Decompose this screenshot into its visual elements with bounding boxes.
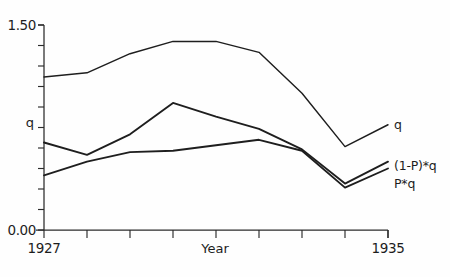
x-axis-start-tick-label: 1927 — [28, 240, 61, 256]
series-label-one-minus-p-q: (1-P)*q — [394, 158, 437, 173]
series-label-p-q: P*q — [394, 176, 415, 191]
chart-figure: 1.50 0.00 q 1927 1935 Year q (1-P)*q P*q — [0, 0, 450, 277]
x-axis-ticks — [44, 230, 388, 238]
y-axis-ticks — [38, 25, 44, 230]
line-chart-canvas: 1.50 0.00 q 1927 1935 Year q (1-P)*q P*q — [0, 0, 450, 277]
series-label-q: q — [394, 117, 402, 132]
x-axis-end-tick-label: 1935 — [372, 240, 405, 256]
series-line-p-q — [44, 140, 388, 188]
series-line-q — [44, 41, 388, 146]
series-line-one-minus-p-q — [44, 103, 388, 184]
x-axis-title: Year — [200, 241, 229, 256]
y-axis-title: q — [26, 115, 34, 130]
y-axis-bottom-tick-label: 0.00 — [8, 222, 36, 238]
y-axis-top-tick-label: 1.50 — [8, 17, 36, 33]
